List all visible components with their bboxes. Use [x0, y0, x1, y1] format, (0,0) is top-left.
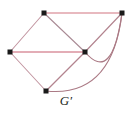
edge-left-bottom — [10, 52, 46, 91]
edge-topleft-left — [10, 13, 44, 52]
edge-arc-inner — [85, 13, 122, 62]
vertex-center — [83, 50, 88, 55]
figure-container: G′ — [0, 0, 132, 114]
graph-label: G′ — [0, 93, 132, 108]
vertex-top-right — [120, 11, 125, 16]
edge-center-topright — [85, 13, 122, 52]
vertex-left — [8, 50, 13, 55]
vertex-top-left — [42, 11, 47, 16]
edge-topleft-center — [44, 13, 85, 52]
edge-center-bottom — [46, 52, 85, 91]
